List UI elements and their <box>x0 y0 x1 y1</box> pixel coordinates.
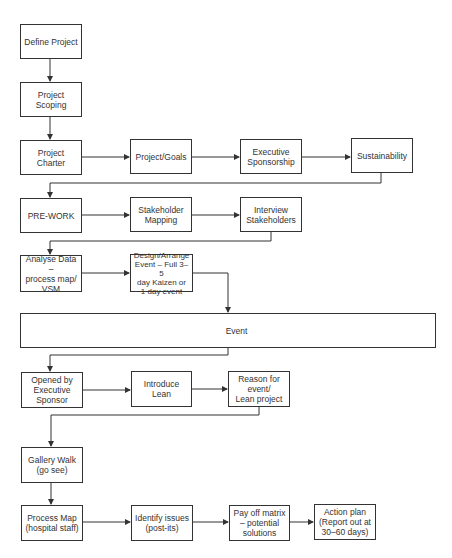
node-sustainability: Sustainability <box>351 138 413 173</box>
node-executive-sponsorship: Executive Sponsorship <box>240 139 302 174</box>
node-define-project: Define Project <box>20 24 82 59</box>
node-project-scoping: Project Scoping <box>20 82 82 117</box>
node-project-charter: Project Charter <box>20 140 82 175</box>
node-opened-by-executive-sponsor: Opened by Executive Sponsor <box>21 372 83 408</box>
node-gallery-walk: Gallery Walk (go see) <box>21 447 83 483</box>
node-interview-stakeholders: Interview Stakeholders <box>240 197 302 232</box>
node-identify-issues: Identify issues (post-its) <box>131 505 193 541</box>
node-design-arrange-event: Design/Arrange Event – Full 3–5 day Kaiz… <box>130 254 193 292</box>
node-pay-off-matrix: Pay off matrix – potential solutions <box>229 505 290 541</box>
node-introduce-lean: Introduce Lean <box>131 371 192 407</box>
node-reason-for-event: Reason for event/ Lean project <box>228 371 290 407</box>
node-analyse-data: Analyse Data – process map/ VSM <box>20 255 82 292</box>
node-project-goals: Project/Goals <box>130 139 192 174</box>
node-event: Event <box>20 313 436 348</box>
node-action-plan: Action plan (Report out at 30–60 days) <box>314 504 376 540</box>
node-pre-work: PRE-WORK <box>20 198 82 233</box>
node-process-map: Process Map (hospital staff) <box>21 505 83 541</box>
node-stakeholder-mapping: Stakeholder Mapping <box>130 197 192 232</box>
